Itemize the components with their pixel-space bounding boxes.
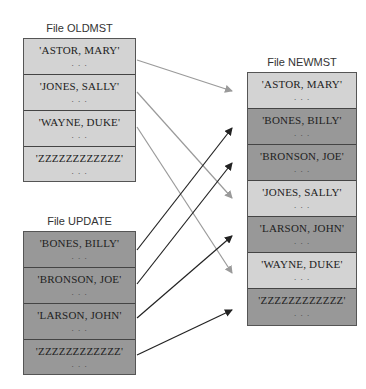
arrow-bronson (137, 163, 232, 284)
arrow-astor (137, 60, 232, 91)
arrow-larson (137, 236, 232, 318)
merge-arrows (0, 0, 366, 389)
arrow-bones (137, 128, 232, 250)
arrow-zzz (137, 310, 232, 355)
arrow-wayne (137, 127, 232, 273)
